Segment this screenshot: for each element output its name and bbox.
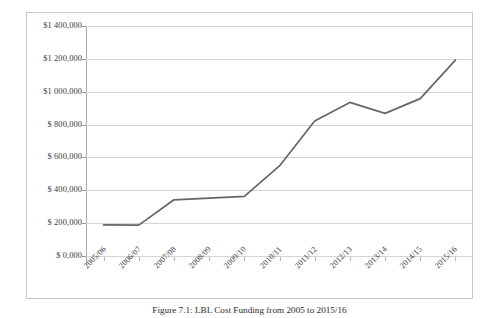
y-axis-tick-label: $ 600,000 xyxy=(48,152,82,161)
gridline xyxy=(86,125,473,126)
x-axis-tick-mark xyxy=(104,257,105,261)
x-axis-tick-mark xyxy=(244,257,245,261)
gridline xyxy=(86,26,473,27)
gridline xyxy=(86,92,473,93)
y-axis-tick-label: $ 800,000 xyxy=(48,120,82,129)
y-axis-tick-label: $1 000,000 xyxy=(43,87,82,96)
x-axis-tick-mark xyxy=(420,257,421,261)
y-axis-tick-mark xyxy=(82,256,86,257)
x-axis-tick-mark xyxy=(315,257,316,261)
gridline xyxy=(86,223,473,224)
y-axis-tick-mark xyxy=(82,92,86,93)
y-axis-tick-label: $ 200,000 xyxy=(48,218,82,227)
x-axis-tick-mark xyxy=(280,257,281,261)
y-axis-tick-label: $1 200,000 xyxy=(43,54,82,63)
y-axis-tick-label: $ 400,000 xyxy=(48,185,82,194)
y-axis-tick-label: $ 0,000 xyxy=(56,251,82,260)
figure-container: $ 0,000$ 200,000$ 400,000$ 600,000$ 800,… xyxy=(0,0,499,318)
y-axis-label-group: $ 0,000$ 200,000$ 400,000$ 600,000$ 800,… xyxy=(18,0,82,318)
gridline xyxy=(86,157,473,158)
x-axis-tick-mark xyxy=(350,257,351,261)
x-axis-tick-mark xyxy=(385,257,386,261)
y-axis-tick-mark xyxy=(82,59,86,60)
x-axis-tick-mark xyxy=(209,257,210,261)
y-axis-tick-mark xyxy=(82,125,86,126)
plot-area xyxy=(86,26,473,256)
figure-caption: Figure 7.1: LBL Cost Funding from 2005 t… xyxy=(0,305,499,316)
y-axis-tick-mark xyxy=(82,190,86,191)
gridline xyxy=(86,190,473,191)
gridline xyxy=(86,59,473,60)
y-axis-tick-mark xyxy=(82,26,86,27)
y-axis-tick-label: $1 400,000 xyxy=(43,21,82,30)
x-axis-tick-mark xyxy=(455,257,456,261)
y-axis-tick-mark xyxy=(82,223,86,224)
x-axis-tick-mark xyxy=(174,257,175,261)
x-axis-tick-mark xyxy=(139,257,140,261)
y-axis-tick-mark xyxy=(82,157,86,158)
